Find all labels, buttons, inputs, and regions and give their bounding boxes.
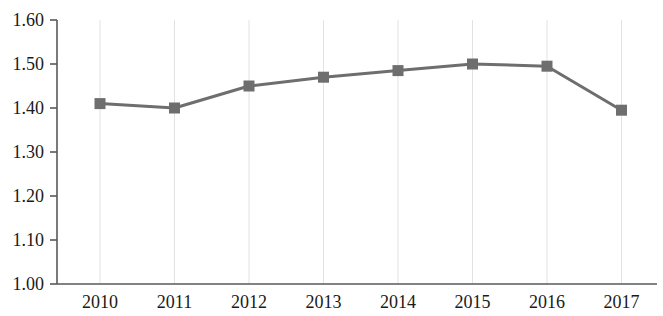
y-axis-tick-label: 1.50: [13, 54, 45, 74]
y-axis-tick-label: 1.20: [13, 186, 45, 206]
chart-canvas: 1.001.101.201.301.401.501.60 20102011201…: [0, 0, 663, 316]
x-axis-tick-label: 2016: [529, 292, 565, 312]
y-axis-tick-label: 1.60: [13, 10, 45, 30]
x-axis-tick-label: 2011: [157, 292, 192, 312]
x-axis-tick-label: 2015: [455, 292, 491, 312]
y-axis-tick-label: 1.40: [13, 98, 45, 118]
x-axis-tick-label: 2017: [604, 292, 640, 312]
data-point-marker: [244, 81, 255, 92]
data-point-marker: [467, 59, 478, 70]
gridlines: [100, 20, 622, 284]
line-chart: 1.001.101.201.301.401.501.60 20102011201…: [0, 0, 663, 316]
x-axis-tick-labels: 20102011201220132014201520162017: [82, 292, 640, 312]
x-axis-tick-label: 2014: [380, 292, 416, 312]
data-point-marker: [318, 72, 329, 83]
data-point-marker: [542, 61, 553, 72]
x-axis-tick-label: 2010: [82, 292, 118, 312]
y-axis-tick-label: 1.00: [13, 274, 45, 294]
y-axis-tick-label: 1.10: [13, 230, 45, 250]
x-axis-tick-label: 2012: [231, 292, 267, 312]
y-axis-tick-label: 1.30: [13, 142, 45, 162]
data-point-marker: [616, 105, 627, 116]
y-axis-tick-labels: 1.001.101.201.301.401.501.60: [13, 10, 45, 294]
data-point-marker: [393, 65, 404, 76]
x-axis-tick-label: 2013: [306, 292, 342, 312]
chart-axes: [57, 20, 657, 284]
data-point-marker: [95, 98, 106, 109]
axis-tick-marks: [50, 20, 57, 284]
data-point-marker: [169, 103, 180, 114]
